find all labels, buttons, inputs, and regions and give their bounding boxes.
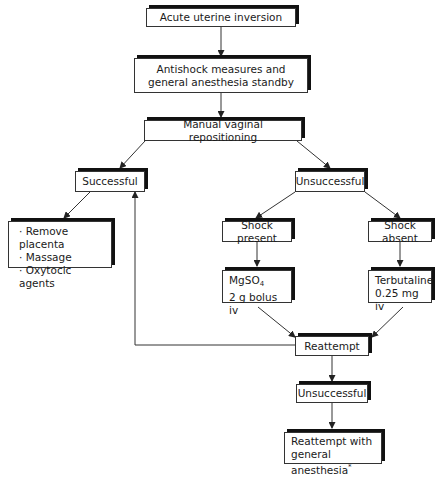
node-mgso4: MgSO4 2 g bolus iv [222, 270, 292, 303]
node-label: 2 g bolus iv [229, 291, 285, 317]
node-label: Successful [82, 175, 138, 188]
node-label: Acute uterine inversion [160, 11, 282, 24]
node-manual-vaginal-repositioning: Manual vaginal repositioning [144, 120, 302, 141]
node-antishock-measures: Antishock measures and general anesthesi… [134, 58, 308, 93]
node-terbutaline: Terbutaline 0.25 mg iv [368, 270, 432, 303]
node-success-actions: · Remove placenta · Massage · Oxytocic a… [8, 221, 112, 268]
node-unsuccessful-2: Unsuccessful [296, 384, 368, 403]
action-item: · Oxytocic agents [19, 264, 105, 290]
node-label: Terbutaline [375, 274, 425, 287]
node-label: Unsuccessful [298, 387, 367, 400]
node-successful: Successful [75, 171, 145, 192]
node-reattempt: Reattempt [295, 336, 369, 356]
node-label: Unsuccessful [296, 175, 365, 188]
action-item: · Massage [19, 251, 105, 264]
node-label: Reattempt [304, 340, 359, 353]
node-label: Antishock measures and [157, 63, 286, 76]
mgso4-label: MgSO4 [229, 274, 285, 291]
node-label: Reattempt with [291, 435, 375, 448]
action-item: · Remove placenta [19, 225, 105, 251]
node-shock-absent: Shock absent [368, 221, 432, 242]
node-label: Shock absent [375, 219, 425, 245]
node-label: Manual vaginal repositioning [151, 118, 295, 144]
node-shock-present: Shock present [222, 221, 292, 242]
node-label: 0.25 mg iv [375, 287, 425, 313]
node-label: general anesthesia* [291, 448, 375, 477]
node-label: Shock present [229, 219, 285, 245]
node-label: general anesthesia standby [148, 76, 294, 89]
node-acute-uterine-inversion: Acute uterine inversion [146, 8, 296, 27]
node-reattempt-general-anesthesia: Reattempt with general anesthesia* [284, 432, 382, 464]
node-unsuccessful: Unsuccessful [295, 171, 365, 192]
